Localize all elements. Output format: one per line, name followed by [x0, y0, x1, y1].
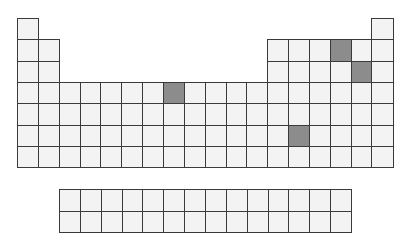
element-cell — [371, 125, 393, 148]
element-cell — [205, 103, 227, 126]
element-cell — [163, 125, 185, 148]
element-cell — [184, 82, 206, 105]
element-cell — [351, 103, 373, 126]
element-cell — [371, 82, 393, 105]
element-cell — [246, 146, 268, 169]
actinide-cell — [142, 211, 164, 234]
element-cell — [100, 125, 122, 148]
element-cell — [17, 39, 39, 62]
element-cell — [330, 82, 352, 105]
element-cell — [205, 125, 227, 148]
actinide-cell — [184, 211, 206, 234]
element-cell — [226, 103, 248, 126]
element-cell — [246, 125, 268, 148]
element-cell — [17, 18, 39, 41]
element-cell — [309, 146, 331, 169]
lanthanide-cell — [247, 189, 269, 212]
element-cell — [17, 103, 39, 126]
actinide-cell — [247, 211, 269, 234]
element-cell — [38, 61, 60, 84]
element-cell — [38, 103, 60, 126]
element-cell — [121, 82, 143, 105]
element-cell — [100, 82, 122, 105]
element-cell — [100, 103, 122, 126]
lanthanide-cell — [288, 189, 310, 212]
element-cell — [163, 103, 185, 126]
element-cell — [59, 82, 81, 105]
element-cell — [226, 82, 248, 105]
element-cell — [309, 103, 331, 126]
element-cell — [371, 18, 393, 41]
element-cell — [309, 61, 331, 84]
actinide-cell — [80, 211, 102, 234]
periodic-table-diagram — [0, 0, 394, 238]
element-cell — [288, 103, 310, 126]
element-cell — [100, 146, 122, 169]
element-cell — [351, 125, 373, 148]
element-cell — [371, 39, 393, 62]
actinide-cell — [59, 211, 81, 234]
element-cell — [309, 39, 331, 62]
lanthanide-cell — [59, 189, 81, 212]
element-cell — [59, 103, 81, 126]
element-cell — [330, 125, 352, 148]
element-cell — [184, 146, 206, 169]
element-cell — [246, 103, 268, 126]
element-cell — [288, 61, 310, 84]
element-cell — [17, 61, 39, 84]
element-cell — [351, 82, 373, 105]
actinide-cell — [288, 211, 310, 234]
element-cell — [38, 39, 60, 62]
element-cell — [121, 103, 143, 126]
element-cell — [142, 146, 164, 169]
element-cell — [267, 61, 289, 84]
lanthanide-cell — [184, 189, 206, 212]
element-cell — [38, 146, 60, 169]
highlighted-element-cell — [163, 82, 185, 105]
element-cell — [309, 82, 331, 105]
element-cell — [226, 146, 248, 169]
element-cell — [226, 125, 248, 148]
element-cell — [205, 146, 227, 169]
element-cell — [17, 125, 39, 148]
element-cell — [330, 146, 352, 169]
element-cell — [371, 61, 393, 84]
lanthanide-cell — [309, 189, 331, 212]
actinide-cell — [205, 211, 227, 234]
lanthanide-cell — [122, 189, 144, 212]
element-cell — [59, 146, 81, 169]
lanthanide-cell — [80, 189, 102, 212]
lanthanide-cell — [330, 189, 352, 212]
element-cell — [38, 82, 60, 105]
element-cell — [371, 146, 393, 169]
element-cell — [59, 125, 81, 148]
element-cell — [267, 82, 289, 105]
actinide-cell — [226, 211, 248, 234]
element-cell — [17, 82, 39, 105]
highlighted-element-cell — [351, 61, 373, 84]
actinide-cell — [122, 211, 144, 234]
element-cell — [38, 125, 60, 148]
element-cell — [80, 146, 102, 169]
element-cell — [288, 82, 310, 105]
element-cell — [288, 146, 310, 169]
lanthanide-cell — [205, 189, 227, 212]
actinide-cell — [101, 211, 123, 234]
lanthanide-cell — [268, 189, 290, 212]
element-cell — [330, 103, 352, 126]
element-cell — [351, 146, 373, 169]
element-cell — [142, 82, 164, 105]
element-cell — [184, 125, 206, 148]
element-cell — [142, 103, 164, 126]
element-cell — [205, 82, 227, 105]
element-cell — [184, 103, 206, 126]
element-cell — [351, 39, 373, 62]
element-cell — [246, 82, 268, 105]
element-cell — [80, 125, 102, 148]
element-cell — [267, 39, 289, 62]
element-cell — [121, 125, 143, 148]
lanthanide-cell — [101, 189, 123, 212]
highlighted-element-cell — [288, 125, 310, 148]
element-cell — [330, 61, 352, 84]
element-cell — [309, 125, 331, 148]
